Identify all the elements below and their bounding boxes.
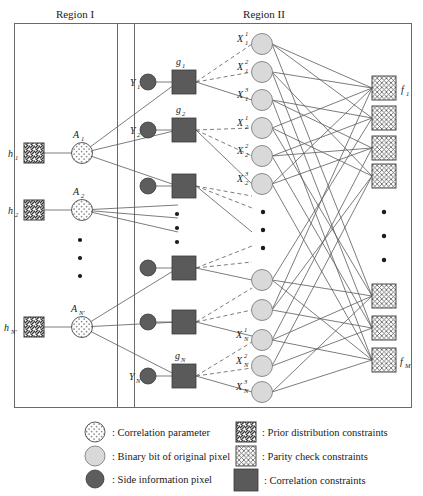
parity-check-node-f1[interactable]: f 1 — [372, 76, 409, 100]
region-2-title: Region II — [243, 8, 285, 20]
bit-node-X1-1-sub: 1 — [245, 39, 248, 46]
correlation-param-AN-label: A — [70, 303, 78, 314]
legend-label-side-information: : Side information pixel — [112, 474, 212, 485]
bit-node-X1-3[interactable]: X 1 3 — [236, 86, 273, 111]
correlation-param-A1-label: A — [72, 129, 80, 140]
side-info-node-4[interactable] — [140, 260, 156, 276]
correlation-constraint-g2-sub: 2 — [182, 110, 186, 117]
bit-node-X1-2[interactable]: X 1 2 — [236, 58, 273, 83]
bit-node-XN-3-sup: 3 — [243, 378, 248, 385]
correlation-param-AN-sub: N' — [78, 309, 85, 316]
bit-node-X2-1[interactable]: X 2 1 — [236, 114, 273, 139]
correlation-constraint-gN[interactable]: g N — [172, 350, 196, 388]
prior-node-h1[interactable]: h 1 — [8, 143, 44, 163]
correlation-constraint-g1-label: g — [176, 56, 181, 67]
x-column-ellipsis — [261, 210, 265, 250]
parity-check-node-f1-label: f — [401, 84, 405, 95]
bit-node-X1-2-sup: 2 — [245, 58, 249, 65]
correlation-constraint-g2-label: g — [176, 104, 181, 115]
edges-x-to-f — [272, 44, 372, 392]
bit-node-XN-3[interactable]: X N 3 — [235, 378, 273, 403]
side-info-node-YN-sub: N — [135, 377, 141, 384]
correlation-constraint-5[interactable] — [172, 310, 196, 334]
legend-item-correlation-parameter: : Correlation parameter — [85, 422, 210, 442]
bit-node-XN-2-sup: 2 — [244, 352, 248, 359]
bit-node-X2-2-sup: 2 — [245, 142, 249, 149]
diagonal-hatch-square-icon — [236, 422, 256, 442]
edges-h-to-a — [42, 153, 72, 327]
bit-node-X2-2[interactable]: X 2 2 — [236, 142, 273, 167]
correlation-constraint-4[interactable] — [172, 256, 196, 280]
prior-node-h2-sub: 2 — [15, 211, 19, 218]
correlation-param-AN[interactable]: A N' — [70, 303, 93, 338]
legend-item-parity-check: : Parity check constraints — [236, 446, 368, 466]
bit-node-8[interactable] — [252, 300, 273, 321]
cross-hatch-square-icon — [236, 446, 256, 466]
correlation-constraint-g1[interactable]: g 1 — [172, 56, 196, 94]
side-info-node-Y1[interactable]: Y 1 — [130, 74, 156, 90]
bit-node-X1-1-label: X — [236, 33, 244, 44]
bit-node-XN-1-sup: 1 — [244, 326, 247, 333]
correlation-param-A2[interactable]: A 2 — [72, 186, 93, 221]
region-1-title: Region I — [56, 8, 95, 20]
correlation-constraint-g2[interactable]: g 2 — [172, 104, 196, 142]
bit-node-X2-3[interactable]: X 2 3 — [236, 170, 273, 195]
bit-node-X2-3-label: X — [236, 173, 244, 184]
parity-check-node-fM[interactable]: f M — [372, 348, 411, 372]
prior-node-h2[interactable]: h 2 — [8, 200, 44, 220]
legend-label-prior-distribution: : Prior distribution constraints — [262, 427, 388, 438]
correlation-param-A1[interactable]: A 1 — [72, 129, 93, 164]
f-column-ellipsis — [382, 210, 386, 262]
bit-node-X1-3-sub: 1 — [245, 95, 248, 102]
filled-square-icon — [234, 469, 258, 491]
bit-node-7[interactable] — [252, 270, 273, 291]
bit-node-XN-1-label: X — [235, 329, 243, 340]
parity-check-node-fM-sub: M — [404, 362, 411, 369]
bit-node-X1-1-sup: 1 — [245, 30, 248, 37]
side-info-node-Y1-sub: 1 — [137, 83, 140, 90]
parity-check-node-4[interactable] — [372, 164, 396, 188]
parity-check-node-6[interactable] — [372, 316, 396, 340]
bit-node-X1-3-label: X — [236, 89, 244, 100]
dotted-circle-icon — [85, 422, 105, 442]
side-info-node-5[interactable] — [140, 314, 156, 330]
region-1-ellipsis — [78, 238, 82, 278]
prior-node-h1-label: h — [8, 148, 13, 159]
bit-node-XN-1-sub: N — [243, 335, 249, 342]
legend-label-binary-bit: : Binary bit of original pixel — [112, 451, 230, 462]
correlation-param-A2-sub: 2 — [81, 192, 85, 199]
bit-node-X1-1[interactable]: X 1 1 — [236, 30, 273, 55]
bit-node-XN-2-label: X — [235, 355, 243, 366]
bit-node-X2-1-sup: 1 — [245, 114, 248, 121]
side-info-node-Y2-label: Y — [130, 125, 137, 136]
bit-node-XN-1[interactable]: X N 1 — [235, 326, 273, 351]
legend-label-correlation-parameter: : Correlation parameter — [112, 427, 210, 438]
factor-graph-svg: Region I Region II — [0, 0, 423, 496]
legend-item-prior-distribution: : Prior distribution constraints — [236, 422, 388, 442]
g-column-ellipsis — [175, 212, 179, 244]
prior-node-h2-label: h — [8, 205, 13, 216]
prior-node-hN-sub: N' — [10, 328, 17, 335]
correlation-param-A2-label: A — [72, 186, 80, 197]
legend-item-side-information: : Side information pixel — [86, 470, 212, 488]
prior-node-h1-sub: 1 — [15, 154, 18, 161]
parity-check-node-fM-label: f — [400, 356, 404, 367]
bit-node-XN-2[interactable]: X N 2 — [235, 352, 273, 377]
side-info-node-Y2[interactable]: Y 2 — [130, 122, 156, 138]
bit-node-X2-1-label: X — [236, 117, 244, 128]
legend-item-correlation-constraints: : Correlation constraints — [234, 469, 365, 491]
side-info-node-3[interactable] — [140, 178, 156, 194]
figure-canvas: Region I Region II — [0, 0, 423, 496]
prior-node-hN[interactable]: h N' — [4, 317, 44, 337]
correlation-constraint-3[interactable] — [172, 174, 196, 198]
bit-node-XN-3-label: X — [235, 381, 243, 392]
correlation-param-A1-sub: 1 — [81, 135, 84, 142]
parity-check-node-f1-sub: 1 — [406, 90, 409, 97]
bit-node-X1-2-sub: 1 — [245, 67, 248, 74]
bit-node-X2-1-sub: 2 — [245, 123, 249, 130]
parity-check-node-3[interactable] — [372, 136, 396, 160]
side-info-node-YN[interactable]: Y N — [129, 368, 156, 384]
parity-check-node-5[interactable] — [372, 284, 396, 308]
legend-label-parity-check: : Parity check constraints — [262, 451, 368, 462]
parity-check-node-2[interactable] — [372, 106, 396, 130]
